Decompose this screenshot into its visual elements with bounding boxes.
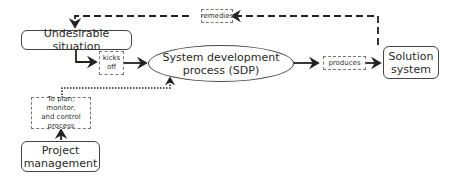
kicks-label-line1: kicks: [103, 54, 121, 63]
undesirable-situation-node[interactable]: Undesirable situation: [21, 30, 132, 50]
pm-label-line1: Project: [42, 144, 80, 157]
solution-label-line1: Solution: [389, 50, 434, 63]
produces-label-text: produces: [328, 59, 360, 68]
remedies-arrow: [75, 16, 189, 27]
remedies-label: remedies: [201, 9, 233, 23]
sdp-node[interactable]: System development process (SDP): [148, 45, 294, 82]
kicks-label-line2: off: [107, 63, 116, 72]
plan-monitor-control-label: To plan, monitor, and control process: [31, 97, 91, 129]
plan-label-line2: and control: [41, 113, 81, 122]
sdp-label-line2: process (SDP): [183, 64, 259, 77]
plan-label-line3: process: [48, 122, 75, 131]
solution-system-node[interactable]: Solution system: [383, 46, 439, 79]
produces-label: produces: [323, 56, 366, 70]
remedies-line: [232, 16, 378, 45]
kicks-off-label: kicks off: [99, 51, 124, 75]
plan-label-line1: To plan, monitor,: [32, 95, 90, 113]
sdp-label-line1: System development: [162, 51, 279, 64]
pm-label-line2: management: [24, 157, 98, 170]
solution-label-line2: system: [391, 63, 431, 76]
undesirable-situation-label: Undesirable situation: [22, 27, 131, 53]
remedies-label-text: remedies: [201, 12, 234, 21]
project-management-node[interactable]: Project management: [21, 141, 100, 172]
